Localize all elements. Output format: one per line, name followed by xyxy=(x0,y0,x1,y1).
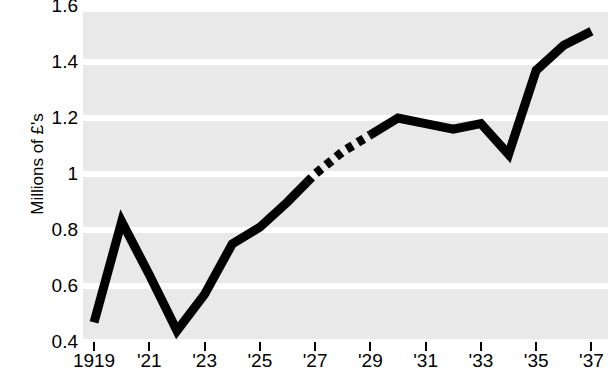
gridline xyxy=(83,115,608,121)
y-tick-label: 1.6 xyxy=(34,0,78,15)
y-axis-tick-labels: 0.40.60.811.21.41.6 xyxy=(30,0,78,345)
plot-svg xyxy=(83,6,608,342)
gridline xyxy=(83,227,608,233)
y-tick-label: 1.2 xyxy=(34,108,78,127)
gridline xyxy=(83,6,608,12)
series-line-solid-left xyxy=(94,182,307,330)
plot-area xyxy=(83,6,608,342)
gridline xyxy=(83,171,608,177)
y-tick-label: 0.6 xyxy=(34,276,78,295)
gridline xyxy=(83,283,608,289)
x-tick-label: '37 xyxy=(551,351,616,372)
y-tick-label: 1.4 xyxy=(34,52,78,71)
line-chart: Millions of £'s 0.40.60.811.21.41.6 1919… xyxy=(0,0,616,375)
y-tick-label: 0.8 xyxy=(34,220,78,239)
y-tick-label: 0.4 xyxy=(34,332,78,351)
y-tick-label: 1 xyxy=(34,164,78,183)
series-line-solid-right xyxy=(370,31,591,154)
gridline xyxy=(83,59,608,65)
x-axis-tick-labels: 1919'21'23'25'27'29'31'33'35'37 xyxy=(0,351,616,375)
